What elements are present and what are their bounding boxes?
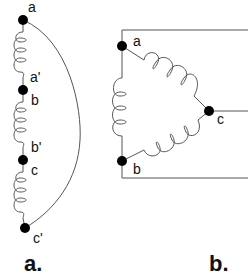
diagram-a: a a' b b' c c' a.: [14, 0, 80, 276]
label-b: b: [31, 92, 39, 108]
coil-ab: [113, 46, 127, 161]
caption-b: b.: [209, 251, 229, 276]
terminal-c: [204, 106, 214, 116]
label-b-prime: b': [31, 139, 41, 155]
terminal-a: [117, 41, 127, 51]
label-b: b: [133, 161, 141, 177]
label-a: a: [28, 0, 36, 15]
terminal-b: [117, 156, 127, 166]
terminal-a-prime-b: [18, 85, 28, 95]
coil-a: [14, 22, 26, 90]
coil-ac: [122, 46, 209, 111]
line-b: [122, 161, 248, 178]
label-c-prime: c': [33, 230, 43, 246]
label-c: c: [217, 111, 224, 127]
diagram-b: a c b b.: [113, 30, 249, 276]
arc-wire: [23, 20, 80, 228]
coil-c: [14, 162, 26, 228]
label-a: a: [133, 33, 141, 49]
label-c: c: [31, 162, 38, 178]
caption-a: a.: [24, 251, 42, 276]
label-a-prime: a': [30, 69, 40, 85]
line-a: [122, 30, 248, 46]
coil-cb: [122, 111, 209, 161]
terminal-c-prime: [20, 223, 30, 233]
terminal-a: [18, 15, 28, 25]
winding-diagrams: a a' b b' c c' a.: [0, 0, 248, 276]
coil-b: [14, 92, 26, 160]
terminal-b-prime-c: [18, 155, 28, 165]
